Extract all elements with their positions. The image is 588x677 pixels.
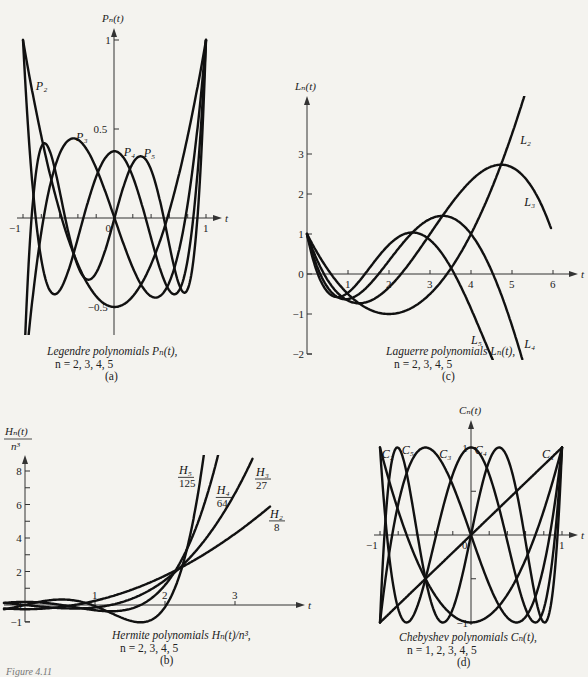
x-axis-arrow-icon <box>569 271 578 277</box>
y-tick-label: −1 <box>10 616 22 628</box>
chebyshev-panel-label: (d) <box>399 656 537 668</box>
y-axis-arrow-icon <box>468 420 474 429</box>
y-axis-label: Lₙ(t) <box>294 80 316 93</box>
x-axis-label: t <box>308 599 312 611</box>
y-axis-label-denominator: n³ <box>11 440 21 452</box>
curve-label-denominator: 64 <box>217 497 229 509</box>
chebyshev-caption: Chebyshev polynomials Cₙ(t), n = 1, 2, 3… <box>399 630 537 668</box>
y-tick-label: 3 <box>298 148 304 160</box>
curve-label-L2: L₂ <box>519 133 531 147</box>
curve-L2 <box>307 96 524 314</box>
laguerre-panel-label: (c) <box>386 370 515 382</box>
y-tick-label: 0 <box>298 268 304 280</box>
x-tick-label: −1 <box>9 222 21 234</box>
legendre-caption-title: Legendre polynomials Pₙ(t), <box>47 344 177 358</box>
y-tick-label: −2 <box>292 348 304 360</box>
curve-H2-8 <box>4 507 270 610</box>
curve-label-C3: C₃ <box>439 447 451 461</box>
legendre-caption: Legendre polynomials Pₙ(t), n = 2, 3, 4,… <box>47 344 177 382</box>
hermite-panel-label: (b) <box>112 654 251 666</box>
curve-label-numerator: H₄ <box>216 483 230 497</box>
x-axis-arrow-icon <box>569 532 578 538</box>
x-tick-label: 4 <box>468 278 474 290</box>
x-axis-label: t <box>581 268 585 280</box>
legendre-panel-label: (a) <box>47 370 177 382</box>
laguerre-caption-n: n = 2, 3, 4, 5 <box>386 358 515 370</box>
hermite-caption-title: Hermite polynomials Hₙ(t)/n³, <box>112 628 251 642</box>
figure-number: Figure 4.11 <box>6 666 52 677</box>
curve-L4 <box>307 216 522 359</box>
curve-label-numerator: H₂ <box>269 507 283 521</box>
x-tick-label: 2 <box>162 589 168 601</box>
curve-label-C5: C₅ <box>402 443 414 457</box>
x-tick-label: 3 <box>427 278 433 290</box>
curve-H5-125 <box>4 419 208 622</box>
curve-label-denominator: 8 <box>274 521 280 533</box>
curve-label-numerator: H₃ <box>255 465 269 479</box>
x-tick-label: 1 <box>345 278 351 290</box>
x-tick-label: 6 <box>550 278 556 290</box>
x-tick-label: 3 <box>232 589 238 601</box>
y-tick-label: 2 <box>298 188 304 200</box>
y-tick-label: 4 <box>16 532 22 544</box>
y-axis-label: Pₙ(t) <box>101 12 124 25</box>
x-axis-arrow-icon <box>296 602 305 608</box>
y-tick-label: 2 <box>16 566 22 578</box>
curve-H4-64 <box>4 428 225 612</box>
legendre-chart: tPₙ(t)−10110.5−0.5P₂P₃P₄P₅ <box>9 12 229 396</box>
legendre-caption-n: n = 2, 3, 4, 5 <box>47 358 177 370</box>
curve-label-L4: L₄ <box>523 337 535 351</box>
curve-label-P4: P₄ <box>123 145 136 159</box>
y-tick-label: 0.5 <box>94 123 108 135</box>
curve-label-L3: L₃ <box>523 195 535 209</box>
curve-label-denominator: 125 <box>179 477 196 489</box>
y-tick-label: 6 <box>16 499 22 511</box>
y-axis-label-numerator: Hₙ(t) <box>4 425 28 438</box>
laguerre-caption-title: Laguerre polynomials Lₙ(t), <box>386 344 515 358</box>
figure-canvas: tPₙ(t)−10110.5−0.5P₂P₃P₄P₅ tLₙ(t)1234563… <box>0 0 588 677</box>
x-tick-label: 5 <box>509 278 515 290</box>
x-tick-label: 1 <box>559 539 565 551</box>
y-axis-arrow-icon <box>111 28 117 37</box>
hermite-caption-n: n = 2, 3, 4, 5 <box>112 642 251 654</box>
x-tick-label: −1 <box>366 539 378 551</box>
y-tick-label: −1 <box>292 308 304 320</box>
y-tick-label: 8 <box>16 465 22 477</box>
curve-label-denominator: 27 <box>256 479 268 491</box>
chebyshev-caption-title: Chebyshev polynomials Cₙ(t), <box>399 630 537 644</box>
chebyshev-chart: tCₙ(t)−1011−1C₁C₂C₃C₄C₅ <box>366 404 585 629</box>
x-tick-label: 1 <box>203 222 209 234</box>
y-axis-arrow-icon <box>304 96 310 105</box>
curve-label-C1: C₁ <box>542 447 554 461</box>
curve-H3-27 <box>4 459 253 609</box>
chebyshev-caption-n: n = 1, 2, 3, 4, 5 <box>399 644 537 656</box>
x-axis-label: t <box>581 529 585 541</box>
y-axis-arrow-icon <box>22 455 28 464</box>
y-tick-label: 1 <box>298 228 304 240</box>
curve-label-P5: P₅ <box>143 146 156 160</box>
laguerre-caption: Laguerre polynomials Lₙ(t), n = 2, 3, 4,… <box>386 344 515 382</box>
curve-label-P3: P₃ <box>75 130 88 144</box>
curve-label-P2: P₂ <box>35 79 48 93</box>
x-axis-label: t <box>225 212 229 224</box>
x-axis-arrow-icon <box>213 215 222 221</box>
laguerre-chart: tLₙ(t)1234563210−1−2L₂L₃L₄L₅ <box>292 80 585 362</box>
curve-label-numerator: H₅ <box>178 463 192 477</box>
curve-label-C4: C₄ <box>475 443 487 457</box>
curve-L5 <box>307 233 494 362</box>
y-axis-label: Cₙ(t) <box>459 404 482 417</box>
hermite-chart: tHₙ(t)n³12386420−1H₂8H₃27H₄64H₅125 <box>4 419 312 628</box>
hermite-caption: Hermite polynomials Hₙ(t)/n³, n = 2, 3, … <box>112 628 251 666</box>
y-tick-label: 1 <box>105 34 111 46</box>
y-tick-label: −0.5 <box>88 301 108 313</box>
